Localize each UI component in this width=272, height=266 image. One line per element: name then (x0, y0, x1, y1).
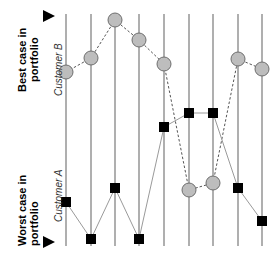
customer-a-marker (257, 216, 267, 226)
worst-case-label-line2: portfolio (28, 201, 40, 246)
customer-b-marker (108, 13, 122, 27)
worst-case-label-line1: Worst case in (16, 174, 28, 246)
customer-a-marker (134, 234, 144, 244)
customer-a-marker (208, 108, 218, 118)
customer-b-marker (157, 57, 171, 71)
customer-b-marker (84, 51, 98, 65)
customer-b-marker (182, 183, 196, 197)
customer-a-marker (233, 183, 243, 193)
customer-a-marker (86, 234, 96, 244)
parallel-coordinates-diagram: Best case in portfolio Customer B Custom… (0, 0, 272, 266)
customer-b-marker (231, 52, 245, 66)
customer-a-label: Customer A (53, 169, 64, 222)
customer-a-marker (184, 108, 194, 118)
customer-b-marker (206, 176, 220, 190)
customer-b-label: Customer B (53, 43, 64, 96)
customer-a-marker (159, 122, 169, 132)
worst-case-arrow-icon (43, 236, 55, 248)
customer-a-marker (110, 183, 120, 193)
best-case-arrow-icon (43, 10, 55, 22)
customer-b-marker (255, 62, 269, 76)
best-case-label-line2: portfolio (28, 37, 40, 82)
customer-b-marker (132, 33, 146, 47)
best-case-label-line1: Best case in (16, 28, 28, 92)
